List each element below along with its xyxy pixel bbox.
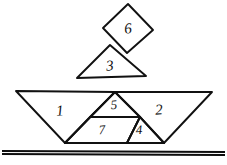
tangram-figure-canvas: 1 2 5 7 4 3 6 bbox=[0, 0, 227, 165]
piece-3-label: 3 bbox=[104, 57, 114, 74]
piece-1-label: 1 bbox=[56, 102, 65, 118]
piece-4-label: 4 bbox=[135, 122, 143, 137]
tangram-drawing: 1 2 5 7 4 3 6 bbox=[0, 0, 227, 165]
ground-line-secondary bbox=[2, 154, 225, 155]
ground-line bbox=[2, 151, 225, 152]
